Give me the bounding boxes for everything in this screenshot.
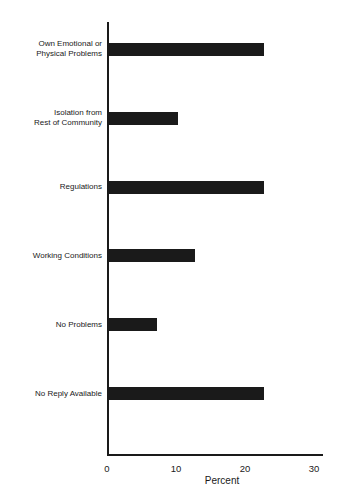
x-axis-title: Percent xyxy=(192,475,252,486)
bar xyxy=(109,318,157,331)
category-label: Regulations xyxy=(0,182,102,192)
x-tick-label: 20 xyxy=(230,463,260,474)
category-label-line: Physical Problems xyxy=(0,49,102,59)
x-tick-label: 0 xyxy=(92,463,122,474)
category-label: Own Emotional or Physical Problems xyxy=(0,39,102,59)
category-label-line: Rest of Community xyxy=(0,118,102,128)
category-label-line: Isolation from xyxy=(0,108,102,118)
x-axis-line xyxy=(107,454,323,456)
category-label-line: Own Emotional or xyxy=(0,39,102,49)
category-label: Working Conditions xyxy=(0,251,102,261)
x-tick-label: 30 xyxy=(299,463,329,474)
bar xyxy=(109,249,195,262)
bar xyxy=(109,43,264,56)
category-label: No Problems xyxy=(0,320,102,330)
category-label: No Reply Available xyxy=(0,389,102,399)
bar xyxy=(109,387,264,400)
category-label: Isolation from Rest of Community xyxy=(0,108,102,128)
bar xyxy=(109,112,178,125)
bar xyxy=(109,181,264,194)
x-tick-label: 10 xyxy=(161,463,191,474)
